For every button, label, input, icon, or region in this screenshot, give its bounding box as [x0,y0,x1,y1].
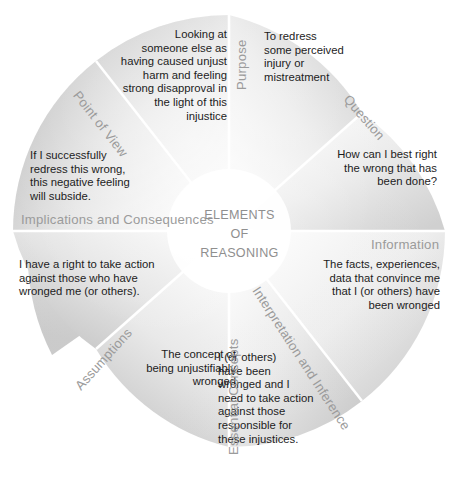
segment-label-information: Information [371,237,439,252]
segment-label-essential-concepts: Essential Concepts [226,339,241,456]
segment-label-purpose: Purpose [234,39,249,90]
segment-text-implications-and-consequences: If I successfully redress this wrong, th… [30,149,190,203]
segment-text-question: How can I best right the wrong that has … [297,148,437,189]
wheel-text-layer: Looking at someone else as having caused… [0,0,456,479]
elements-of-reasoning-diagram: Looking at someone else as having caused… [0,0,456,479]
segment-text-information: The facts, experiences, data that convin… [300,258,440,312]
segment-text-assumptions: I have a right to take action against th… [19,258,199,299]
segment-label-question: Question [341,92,388,143]
diagram-center-title: ELEMENTS OF REASONING [183,206,296,263]
segment-text-point-of-view: Looking at someone else as having caused… [106,28,227,123]
segment-text-essential-concepts: The concept of being unjustifiably wrong… [106,348,236,389]
segment-text-purpose: To redress some perceived injury or mist… [264,30,386,84]
